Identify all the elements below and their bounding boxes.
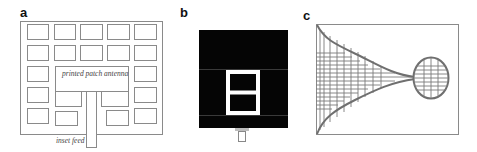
circular-element xyxy=(414,58,449,99)
patch-label: printed patch antenna xyxy=(61,69,128,78)
panel-c-diagram xyxy=(316,25,459,135)
panel-b-diagram xyxy=(199,30,288,142)
feed-pin xyxy=(239,132,246,142)
panel-a-diagram xyxy=(21,22,163,148)
figure-canvas: printed patch antenna inset feed xyxy=(0,0,477,152)
feed-connector xyxy=(235,128,249,131)
inset-feed xyxy=(87,92,97,148)
feed-label: inset feed xyxy=(56,136,85,145)
